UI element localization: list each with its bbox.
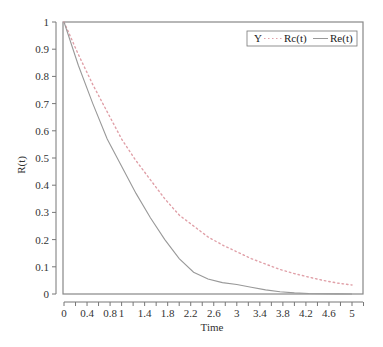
x-tick-label: 3 <box>234 307 240 319</box>
x-tick-label: 0.4 <box>80 307 94 319</box>
y-tick-label: 0.9 <box>35 43 49 55</box>
x-axis: 00.40.811.41.82.22.633.43.84.24.65 <box>61 302 363 319</box>
y-tick-label: 1 <box>44 16 50 28</box>
legend-title: Y <box>254 32 262 44</box>
x-tick-label: 4.2 <box>299 307 313 319</box>
y-axis-title: R(t) <box>15 156 28 174</box>
x-tick-label: 5 <box>349 307 355 319</box>
y-tick-label: 0.3 <box>35 206 49 218</box>
x-axis-title: Time <box>201 321 224 333</box>
x-tick-label: 3.8 <box>276 307 290 319</box>
series-ret <box>64 22 352 294</box>
x-tick-label: 2.6 <box>207 307 221 319</box>
series-layer <box>64 22 352 294</box>
x-tick-label: 3.4 <box>253 307 267 319</box>
y-tick-label: 0.7 <box>35 98 49 110</box>
legend: Y Rc(t) Re(t) <box>247 31 357 46</box>
legend-label-re: Re(t) <box>330 32 353 45</box>
x-tick-label: 1.8 <box>161 307 175 319</box>
x-tick-label: 4.6 <box>322 307 336 319</box>
y-tick-label: 0.6 <box>35 125 49 137</box>
y-tick-label: 0.2 <box>35 234 49 246</box>
y-tick-label: 0 <box>44 288 50 300</box>
y-tick-label: 0.1 <box>35 261 49 273</box>
x-tick-label: 1.4 <box>138 307 152 319</box>
y-tick-label: 0.4 <box>35 179 49 191</box>
legend-label-rc: Rc(t) <box>284 32 307 45</box>
plot-frame <box>63 22 363 294</box>
x-tick-label: 1 <box>119 307 125 319</box>
x-tick-label: 2.2 <box>184 307 198 319</box>
y-axis: 00.10.20.30.40.50.60.70.80.91 <box>35 16 56 300</box>
series-rct <box>64 22 352 285</box>
x-tick-label: 0 <box>61 307 67 319</box>
y-tick-label: 0.5 <box>35 152 49 164</box>
x-tick-label: 0.8 <box>103 307 117 319</box>
reliability-chart: 00.10.20.30.40.50.60.70.80.91 00.40.811.… <box>0 0 383 347</box>
y-tick-label: 0.8 <box>35 70 49 82</box>
